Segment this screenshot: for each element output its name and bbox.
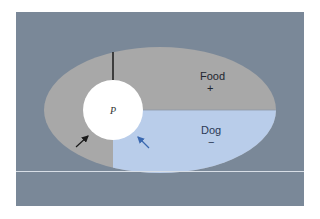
food-valence: + (207, 82, 213, 94)
person-label: P (109, 105, 116, 116)
dog-label: Dog (201, 124, 221, 136)
life-space-diagram: P Food + Dog − (0, 0, 320, 219)
dog-valence: − (208, 136, 214, 148)
food-label: Food (200, 70, 225, 82)
